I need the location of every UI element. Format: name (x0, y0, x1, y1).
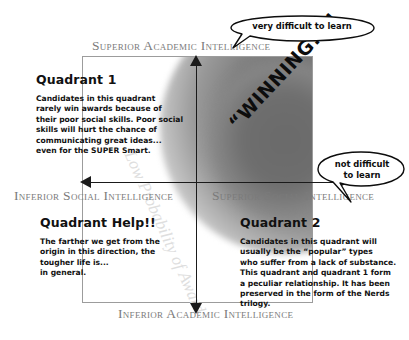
callout-very-difficult-to-learn: very difficult to learn (228, 14, 378, 60)
quadrant-2-body: Candidates in this quadrant will usually… (240, 237, 405, 310)
quadrant-1-block: Quadrant 1 Candidates in this quadrant r… (36, 72, 196, 156)
quadrant-1-body: Candidates in this quadrant rarely win a… (36, 94, 196, 156)
axis-label-left: Inferior Social Intelligence (14, 188, 173, 204)
quadrant-diagram-canvas: Low Probability of Award Superior Academ… (0, 0, 409, 340)
arrow-up-icon (190, 55, 202, 66)
quadrant-2-title: Quadrant 2 (240, 215, 405, 230)
vertical-axis (196, 58, 197, 312)
quadrant-help-body: The farther we get from the origin in th… (40, 237, 190, 279)
quadrant-help-title: Quadrant Help!! (40, 215, 190, 230)
quadrant-2-block: Quadrant 2 Candidates in this quadrant w… (240, 215, 405, 310)
callout-not-difficult-text: not difficult to learn (325, 159, 399, 181)
arrow-left-icon (80, 176, 91, 188)
quadrant-1-title: Quadrant 1 (36, 72, 196, 87)
callout-very-difficult-text: very difficult to learn (244, 21, 360, 32)
callout-not-difficult-to-learn: not difficult to learn (314, 150, 409, 210)
quadrant-help-block: Quadrant Help!! The farther we get from … (40, 215, 190, 279)
horizontal-axis (83, 182, 347, 183)
